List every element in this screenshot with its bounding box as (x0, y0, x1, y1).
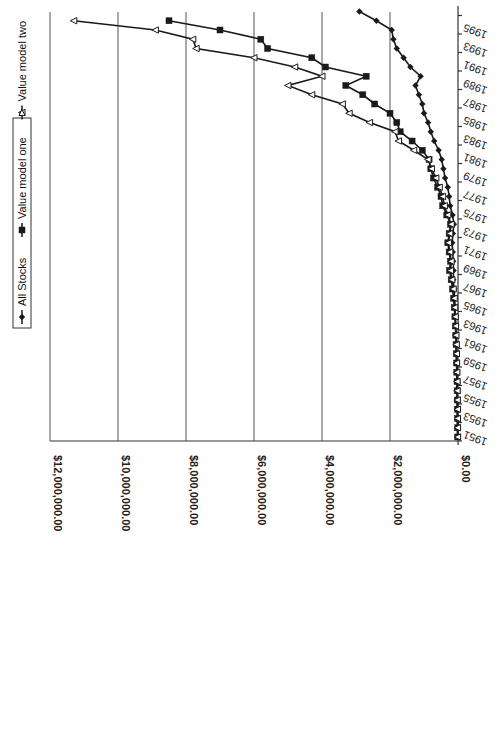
square-marker (217, 27, 223, 33)
legend-label: Value model two (16, 21, 28, 102)
year-tick-label: 1953 (462, 410, 489, 430)
year-tick-label: 1961 (462, 336, 489, 356)
series-line (359, 12, 457, 438)
year-tick-label: 1977 (462, 188, 489, 208)
series-value-model-two (70, 18, 460, 441)
diamond-marker (435, 147, 441, 153)
series-line (169, 21, 458, 437)
rotated-line-chart: 1951195319551957195919611963196519671969… (0, 0, 497, 749)
diamond-marker (447, 203, 453, 209)
legend: All StocksValue model oneValue model two (13, 21, 31, 328)
year-tick-label: 1951 (462, 429, 489, 449)
triangle-marker (70, 18, 77, 24)
value-tick-label: $2,000,000.00 (392, 455, 404, 525)
axes (50, 6, 462, 445)
year-tick-label: 1989 (462, 77, 489, 97)
square-marker (265, 46, 271, 52)
year-tick-label: 1971 (462, 244, 489, 264)
year-tick-label: 1969 (462, 262, 489, 282)
year-tick-label: 1959 (462, 355, 489, 375)
year-tick-label: 1963 (462, 318, 489, 338)
square-marker (409, 138, 415, 144)
year-tick-label: 1975 (462, 207, 489, 227)
value-tick-label: $4,000,000.00 (324, 455, 336, 525)
year-tick-label: 1981 (462, 151, 489, 171)
year-tick-label: 1987 (462, 96, 489, 116)
value-tick-label: $8,000,000.00 (188, 455, 200, 525)
series-line (74, 21, 458, 437)
triangle-marker (308, 92, 315, 98)
year-tick-label: 1967 (462, 281, 489, 301)
legend-item-value-model-two: Value model two (16, 21, 28, 120)
square-marker (419, 147, 425, 153)
square-marker (322, 64, 328, 70)
square-marker (19, 227, 25, 233)
diamond-marker (419, 101, 425, 107)
gridlines (50, 12, 390, 441)
year-tick-label: 1973 (462, 225, 489, 245)
triangle-marker (339, 101, 346, 107)
diamond-marker (428, 129, 434, 135)
value-tick-label: $12,000,000.00 (52, 455, 64, 531)
square-marker (394, 120, 400, 126)
diamond-marker (412, 82, 418, 88)
year-tick-label: 1983 (462, 133, 489, 153)
square-marker (372, 101, 378, 107)
diamond-marker (356, 8, 362, 14)
diamond-marker (438, 156, 444, 162)
square-marker (309, 55, 315, 61)
diamond-marker (442, 175, 448, 181)
series-lines (70, 8, 461, 440)
diamond-marker (421, 110, 427, 116)
series-all-stocks (356, 8, 461, 440)
square-marker (363, 73, 369, 79)
diamond-marker (445, 184, 451, 190)
triangle-marker (392, 129, 399, 135)
square-marker (258, 36, 264, 42)
year-tick-label: 1979 (462, 170, 489, 190)
value-axis-labels: $0.00$2,000,000.00$4,000,000.00$6,000,00… (52, 455, 472, 531)
triangle-marker (291, 64, 298, 70)
year-tick-label: 1985 (462, 114, 489, 134)
diamond-marker (425, 119, 431, 125)
year-tick-label: 1957 (462, 373, 489, 393)
legend-label: All Stocks (16, 257, 28, 306)
year-tick-label: 1965 (462, 299, 489, 319)
triangle-marker (189, 36, 196, 42)
legend-label: Value model one (16, 137, 28, 219)
diamond-marker (416, 92, 422, 98)
value-tick-label: $0.00 (460, 455, 472, 483)
triangle-marker (152, 27, 159, 33)
year-axis-labels: 1951195319551957195919611963196519671969… (462, 22, 489, 449)
year-tick-label: 1955 (462, 392, 489, 412)
square-marker (387, 110, 393, 116)
value-tick-label: $6,000,000.00 (256, 455, 268, 525)
triangle-marker (285, 82, 292, 88)
year-tick-label: 1995 (462, 22, 489, 42)
triangle-marker (366, 119, 373, 125)
diamond-marker (440, 166, 446, 172)
diamond-marker (446, 193, 452, 199)
diamond-marker (390, 36, 396, 42)
year-tick-label: 1993 (462, 40, 489, 60)
series-value-model-one (166, 18, 461, 440)
square-marker (166, 18, 172, 24)
value-tick-label: $10,000,000.00 (120, 455, 132, 531)
square-marker (343, 83, 349, 89)
square-marker (360, 92, 366, 98)
diamond-marker (431, 138, 437, 144)
year-tick-label: 1991 (462, 59, 489, 79)
